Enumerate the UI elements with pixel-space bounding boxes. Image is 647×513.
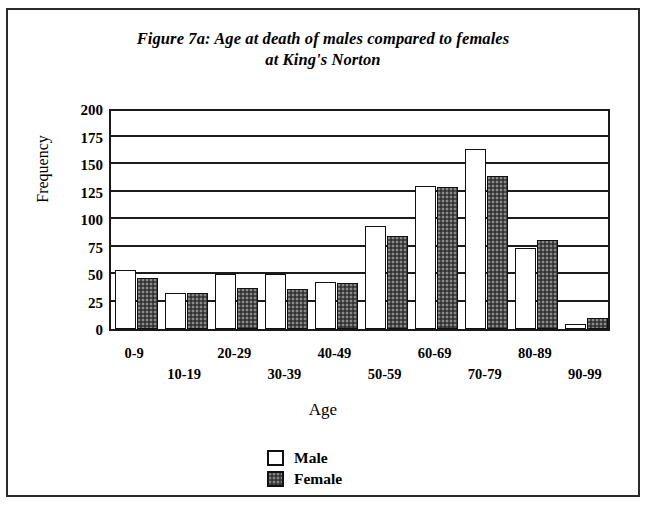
- bar-female: [237, 288, 258, 329]
- bar-male: [565, 324, 586, 330]
- bar-group: [562, 111, 612, 329]
- chart-legend: Male Female: [8, 450, 638, 487]
- x-axis-tick-label: 40-49: [318, 345, 352, 361]
- bar-male: [265, 274, 286, 329]
- bar-group: [512, 111, 562, 329]
- bar-male: [515, 248, 536, 329]
- y-axis-tick-label: 125: [81, 185, 104, 200]
- bar-series-container: [111, 111, 608, 329]
- x-axis-tick-label: 20-29: [217, 345, 251, 361]
- bar-female: [337, 283, 358, 329]
- y-axis-tick-label: 0: [96, 323, 104, 338]
- x-axis-tick-label: 70-79: [468, 366, 502, 382]
- y-axis-tick-label: 25: [88, 295, 103, 310]
- bar-male: [315, 282, 336, 329]
- bar-female: [387, 236, 408, 330]
- y-axis-tick-label: 100: [81, 213, 104, 228]
- bar-group: [412, 111, 462, 329]
- x-axis-tick-label: 10-19: [167, 366, 201, 382]
- bar-group: [261, 111, 311, 329]
- bar-male: [415, 186, 436, 329]
- y-axis-tick-label: 200: [81, 103, 104, 118]
- bar-group: [111, 111, 161, 329]
- chart-title-line-2: at King's Norton: [8, 49, 638, 70]
- bar-male: [215, 274, 236, 329]
- bar-group: [211, 111, 261, 329]
- legend-entry-female: Female: [267, 471, 379, 487]
- x-axis-tick-labels: 0-910-1920-2930-3940-4950-5960-6970-7980…: [109, 341, 610, 389]
- bar-group: [462, 111, 512, 329]
- bar-group: [362, 111, 412, 329]
- bar-male: [465, 149, 486, 329]
- legend-swatch-male-icon: [267, 450, 284, 466]
- bar-female: [587, 318, 608, 329]
- bar-male: [115, 270, 136, 329]
- chart-title: Figure 7a: Age at death of males compare…: [8, 28, 638, 70]
- y-axis-tick-labels: 0255075100125150175200: [53, 109, 103, 331]
- y-axis-tick-label: 150: [81, 158, 104, 173]
- figure-container: Figure 7a: Age at death of males compare…: [6, 8, 640, 497]
- bar-female: [137, 278, 158, 329]
- legend-entry-male: Male: [267, 450, 379, 466]
- x-axis-tick-label: 0-9: [124, 345, 143, 361]
- legend-swatch-female-icon: [267, 471, 284, 487]
- legend-label-female: Female: [294, 471, 342, 487]
- x-axis-tick-label: 80-89: [518, 345, 552, 361]
- x-axis-title: Age: [8, 400, 638, 420]
- bar-female: [537, 240, 558, 329]
- bar-female: [287, 289, 308, 329]
- bar-group: [311, 111, 361, 329]
- bar-group: [161, 111, 211, 329]
- y-axis-title: Frequency: [34, 79, 52, 259]
- bar-female: [187, 293, 208, 329]
- plot-area: [109, 109, 610, 331]
- bar-female: [487, 176, 508, 329]
- y-axis-tick-label: 175: [81, 130, 104, 145]
- x-axis-tick-label: 30-39: [267, 366, 301, 382]
- legend-label-male: Male: [294, 450, 328, 466]
- bar-female: [437, 187, 458, 329]
- chart-title-line-1: Figure 7a: Age at death of males compare…: [137, 29, 510, 48]
- x-axis-tick-label: 60-69: [418, 345, 452, 361]
- bar-male: [165, 293, 186, 329]
- y-axis-tick-label: 50: [88, 268, 103, 283]
- bar-male: [365, 226, 386, 329]
- x-axis-tick-label: 90-99: [568, 366, 602, 382]
- y-axis-tick-label: 75: [88, 240, 103, 255]
- x-axis-tick-label: 50-59: [368, 366, 402, 382]
